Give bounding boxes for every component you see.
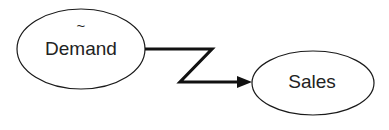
node-demand[interactable]: ~ Demand: [17, 9, 145, 89]
node-sales-label: Sales: [288, 71, 336, 92]
diagram-svg: ~ Demand Sales: [0, 0, 389, 130]
link-arrowhead-icon: [237, 76, 252, 88]
node-sales[interactable]: Sales: [252, 51, 374, 115]
node-demand-label: Demand: [45, 38, 117, 59]
link-demand-to-sales[interactable]: [145, 49, 252, 88]
node-demand-tilde: ~: [77, 17, 86, 34]
link-zigzag-path[interactable]: [145, 49, 244, 82]
diagram-canvas: ~ Demand Sales: [0, 0, 389, 130]
